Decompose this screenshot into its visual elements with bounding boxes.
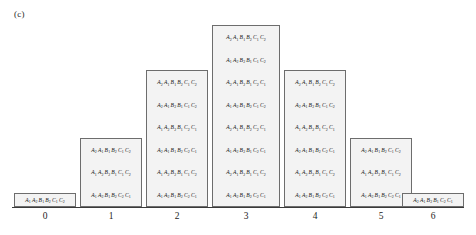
axis-tick-labels: 0123456	[0, 0, 476, 235]
axis-tick-4: 4	[313, 211, 318, 221]
axis-tick-2: 2	[175, 211, 180, 221]
axis-tick-5: 5	[379, 211, 384, 221]
axis-tick-6: 6	[431, 211, 436, 221]
axis-tick-3: 3	[244, 211, 249, 221]
figure-panel-c: (c) A1A2B1B2C1C2A1A2B1B2C2C1A1A2B2B1C1C2…	[0, 0, 476, 235]
axis-tick-1: 1	[109, 211, 114, 221]
axis-tick-0: 0	[43, 211, 48, 221]
